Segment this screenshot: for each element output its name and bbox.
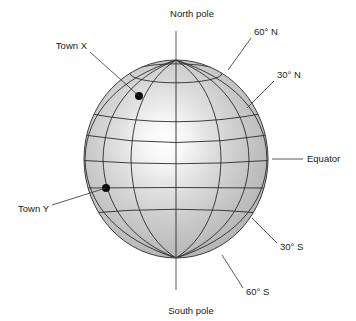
label-lat-60-north: 60° N bbox=[254, 26, 278, 37]
label-lat-30-north: 30° N bbox=[277, 69, 301, 80]
label-town-y: Town Y bbox=[18, 203, 50, 214]
diagram-canvas: North pole South pole 60° N 30° N Equato… bbox=[0, 0, 356, 321]
label-equator: Equator bbox=[307, 153, 340, 164]
lat-30s-leader-line bbox=[252, 218, 277, 243]
lat-60s-leader-line bbox=[222, 255, 243, 288]
label-north-pole: North pole bbox=[170, 8, 214, 19]
lat-30n-leader-line bbox=[247, 81, 274, 108]
label-town-x: Town X bbox=[56, 40, 88, 51]
label-south-pole: South pole bbox=[168, 305, 213, 316]
label-lat-30-south: 30° S bbox=[280, 241, 303, 252]
lat-60n-leader-line bbox=[228, 38, 251, 70]
globe-diagram: North pole South pole 60° N 30° N Equato… bbox=[0, 0, 356, 321]
label-lat-60-south: 60° S bbox=[246, 286, 269, 297]
